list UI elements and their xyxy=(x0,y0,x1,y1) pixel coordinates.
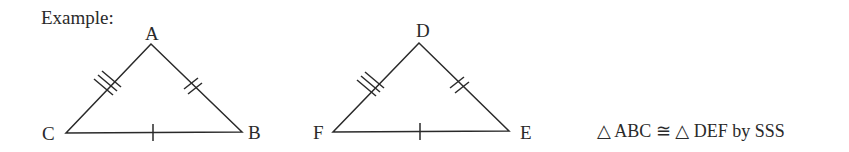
vertex-c: C xyxy=(42,124,55,143)
vertex-d: D xyxy=(416,21,430,40)
triangle-def xyxy=(333,43,509,132)
vertex-e: E xyxy=(520,123,532,142)
congruence-statement: △ ABC ≅ △ DEF by SSS xyxy=(597,122,785,140)
vertex-b: B xyxy=(248,123,261,142)
double-tick-de xyxy=(450,77,469,93)
triple-tick-ac xyxy=(94,71,121,95)
vertex-f: F xyxy=(313,123,324,142)
triangle-abc xyxy=(66,44,242,133)
vertex-a: A xyxy=(145,24,159,43)
